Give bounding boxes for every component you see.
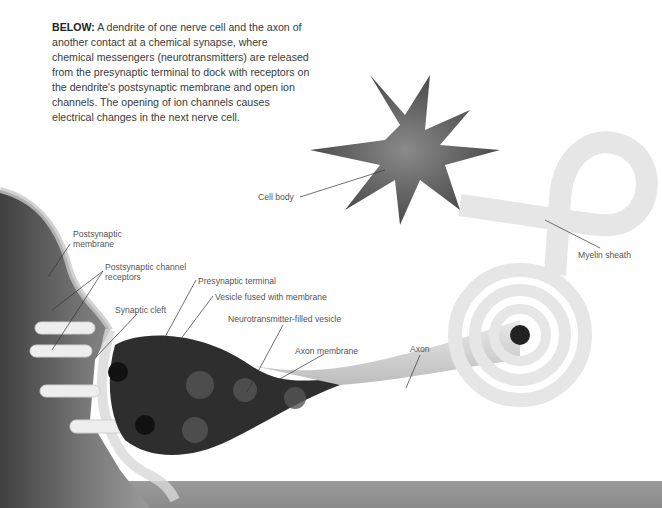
label-line-2: membrane [73, 239, 114, 249]
label-nt-vesicle: Neurotransmitter-filled vesicle [228, 314, 341, 324]
label-axon-membrane: Axon membrane [295, 346, 358, 356]
label-presynaptic-terminal: Presynaptic terminal [198, 276, 276, 286]
label-cell-body: Cell body [258, 192, 294, 202]
label-line-2: receptors [105, 272, 141, 282]
label-line-1: Postsynaptic [73, 229, 122, 239]
neuron-illustration [0, 0, 662, 508]
label-line-1: Postsynaptic channel [105, 262, 186, 272]
label-vesicle-fused: Vesicle fused with membrane [215, 292, 327, 302]
label-axon: Axon [410, 344, 430, 354]
label-myelin-sheath: Myelin sheath [578, 250, 631, 260]
label-synaptic-cleft: Synaptic cleft [115, 305, 166, 315]
myelin-sheath [455, 142, 647, 400]
label-postsynaptic-receptors: Postsynaptic channelreceptors [105, 262, 186, 282]
label-postsynaptic-membrane: Postsynapticmembrane [73, 229, 122, 249]
